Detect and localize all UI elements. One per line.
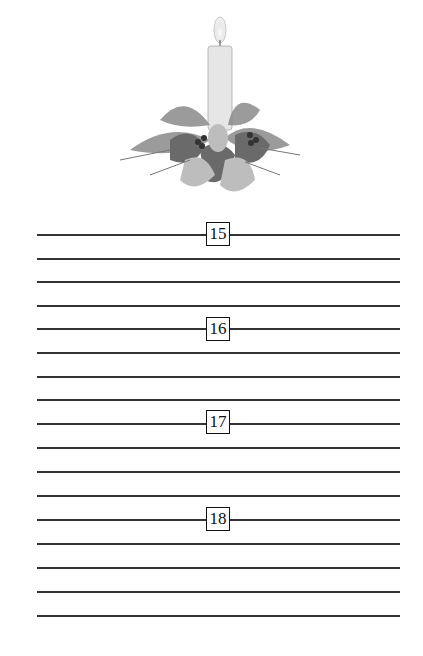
ruled-line <box>37 567 400 569</box>
ruled-line <box>37 447 400 449</box>
ruled-line <box>37 591 400 593</box>
date-box-18: 18 <box>206 507 230 531</box>
ruled-line <box>37 543 400 545</box>
date-box-15: 15 <box>206 222 230 246</box>
ruled-line <box>37 471 400 473</box>
ruled-line <box>37 615 400 617</box>
ruled-line <box>37 305 400 307</box>
ruled-line <box>37 495 400 497</box>
ruled-line <box>37 281 400 283</box>
ruled-line <box>37 352 400 354</box>
date-box-16: 16 <box>206 317 230 341</box>
ruled-line <box>37 376 400 378</box>
ruled-line <box>37 258 400 260</box>
ruled-line <box>37 399 400 401</box>
date-box-17: 17 <box>206 410 230 434</box>
candle-holly-illustration <box>110 10 310 210</box>
